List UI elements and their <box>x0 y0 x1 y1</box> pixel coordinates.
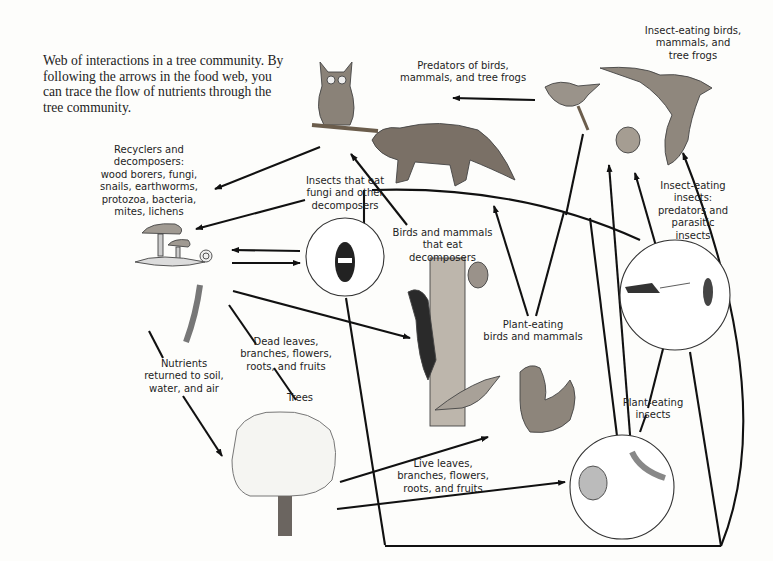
owl-icon <box>312 62 378 131</box>
tree-icon <box>232 412 336 536</box>
insect-predators-circle <box>620 240 730 350</box>
figure-caption: Web of interactions in a tree community.… <box>43 53 293 115</box>
label-live-matter: Live leaves, branches, flowers, roots, a… <box>393 458 493 495</box>
line-nutrients-up <box>149 331 163 358</box>
arrow-nutrients-to-tree <box>183 396 222 456</box>
marten-icon <box>372 123 515 186</box>
label-nutrients-returned: Nutrients returned to soil, water, and a… <box>134 358 234 395</box>
arrow-fungi-insects-to-decomposers <box>196 200 305 229</box>
label-dead-matter: Dead leaves, branches, flowers, roots, a… <box>236 336 336 373</box>
label-insect-eating-insects: Insect-eating insects: predators and par… <box>648 180 738 242</box>
label-trees: Trees <box>280 392 320 404</box>
label-insect-eating-vertebrates: Insect-eating birds, mammals, and tree f… <box>638 25 748 62</box>
label-birds-eat-decomposers: Birds and mammals that eat decomposers <box>390 227 495 264</box>
label-insects-eat-fungi: Insects that eat fungi and other decompo… <box>300 175 390 212</box>
wren-icon <box>545 82 600 130</box>
arrow-beetle-to-decomposers <box>232 250 300 251</box>
label-predators: Predators of birds, mammals, and tree fr… <box>398 60 528 85</box>
label-plant-eating-vertebrates: Plant-eating birds and mammals <box>478 319 588 344</box>
tree-frog-icon <box>616 127 640 153</box>
label-recyclers: Recyclers and decomposers: wood borers, … <box>95 144 203 218</box>
arrow-to-predators <box>453 98 535 100</box>
line-to-wren <box>566 134 583 215</box>
mushroom-snail-icon <box>135 224 212 266</box>
arrow-plant-eaters-to-marten <box>494 206 528 316</box>
beetle-icon <box>335 242 355 282</box>
bat-icon <box>600 67 712 165</box>
earthworm-icon <box>186 285 200 342</box>
label-plant-eating-insects: Plant-eating insects <box>618 397 688 422</box>
line-plant-eaters <box>536 212 564 316</box>
food-web-diagram: Web of interactions in a tree community.… <box>0 0 773 561</box>
arrow-decomposers-to-woodpecker <box>233 291 410 338</box>
line-to-insect-circle <box>690 352 721 546</box>
